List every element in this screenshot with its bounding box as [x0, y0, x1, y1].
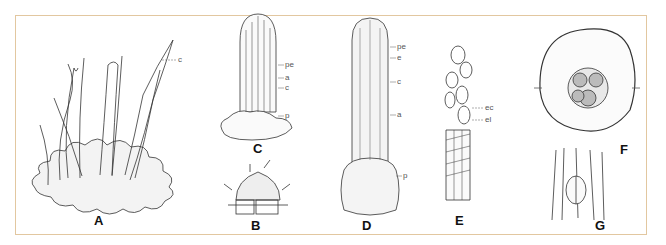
panel-label-a: A — [94, 213, 103, 228]
part-label-e-el: el — [485, 115, 491, 124]
part-label-d-a: a — [397, 110, 401, 119]
panel-g-drawing — [552, 148, 604, 220]
panel-d-drawing — [341, 18, 402, 215]
part-label-c-a: a — [285, 73, 289, 82]
panel-label-f: F — [620, 142, 628, 157]
panel-label-c: C — [253, 141, 262, 156]
part-label-c-p: p — [285, 111, 289, 120]
part-label-d-pe: pe — [397, 42, 406, 51]
panel-c-drawing — [221, 14, 292, 140]
part-label-d-e: e — [397, 53, 401, 62]
part-label-c-c: c — [285, 83, 289, 92]
part-label-d-c: c — [397, 77, 401, 86]
part-label-d-p: p — [403, 171, 407, 180]
panel-label-g: G — [595, 218, 605, 233]
panel-b-drawing — [224, 160, 290, 214]
panel-e-drawing — [445, 46, 484, 200]
part-label-e-ec: ec — [485, 103, 493, 112]
part-label-a-c: c — [178, 55, 182, 64]
panel-f-drawing — [534, 29, 640, 131]
panel-label-b: B — [251, 218, 260, 233]
part-label-c-pe: pe — [285, 60, 294, 69]
panel-a-drawing — [32, 40, 176, 214]
panel-label-e: E — [455, 213, 464, 228]
panel-label-d: D — [362, 218, 371, 233]
illustration-canvas — [0, 0, 666, 245]
